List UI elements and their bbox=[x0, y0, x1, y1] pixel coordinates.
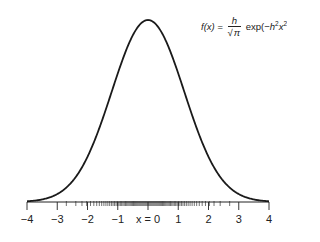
function-formula: f(x) = h √π exp(−h2x2) bbox=[201, 16, 287, 39]
tick-label: −1 bbox=[111, 213, 124, 225]
formula-denominator: √π bbox=[228, 27, 242, 38]
tick-label: −4 bbox=[21, 213, 34, 225]
tick-label: 3 bbox=[236, 213, 242, 225]
formula-lhs: f(x) = bbox=[201, 21, 223, 32]
pi-symbol: π bbox=[233, 26, 241, 38]
gaussian-curve bbox=[27, 20, 269, 201]
tick-label: 2 bbox=[205, 213, 211, 225]
tick-label: 4 bbox=[266, 213, 272, 225]
formula-fraction: h √π bbox=[228, 15, 242, 38]
tick-label: 1 bbox=[175, 213, 181, 225]
formula-exp-prefix: exp(− bbox=[246, 21, 270, 32]
x-axis-tick-labels: −4−3−2−1x = 01234 bbox=[21, 213, 272, 225]
tick-label: −3 bbox=[51, 213, 64, 225]
radical-sign-icon: √ bbox=[228, 27, 233, 38]
x-axis-major-ticks bbox=[27, 202, 269, 210]
tick-label: −2 bbox=[81, 213, 94, 225]
tick-label: x = 0 bbox=[136, 213, 160, 225]
